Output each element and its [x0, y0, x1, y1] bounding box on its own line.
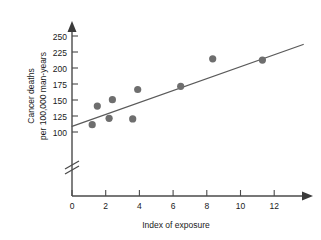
regression-line: [72, 45, 303, 127]
y-tick-label-175: 175: [53, 80, 67, 90]
y-tick-label-125: 125: [53, 112, 67, 122]
x-tick-label-6: 6: [171, 201, 176, 211]
x-axis-title: Index of exposure: [142, 220, 210, 230]
y-axis-arrow-icon: [68, 21, 77, 32]
chart-canvas: 250 225 200 175 150 125 100 0 2 4 6 8 10…: [0, 0, 321, 240]
x-tick-label-4: 4: [137, 201, 142, 211]
y-tick-label-250: 250: [53, 32, 67, 42]
y-axis-title: Cancer deaths per 100,000 man-years: [26, 52, 48, 140]
x-tick-label-12: 12: [269, 201, 279, 211]
scatter-chart: 250 225 200 175 150 125 100 0 2 4 6 8 10…: [0, 0, 321, 240]
x-tick-label-2: 2: [103, 201, 108, 211]
y-axis-title-line2: per 100,000 man-years: [38, 52, 48, 140]
data-point: [89, 121, 96, 128]
y-axis-title-line1: Cancer deaths: [26, 68, 36, 123]
y-tick-label-200: 200: [53, 64, 67, 74]
y-tick-label-150: 150: [53, 96, 67, 106]
x-tick-label-0: 0: [70, 201, 75, 211]
data-point: [106, 115, 113, 122]
x-axis-tick-labels: 0 2 4 6 8 10 12: [70, 201, 280, 211]
x-axis-group: [72, 192, 313, 201]
x-tick-label-10: 10: [236, 201, 246, 211]
y-tick-label-225: 225: [53, 48, 67, 58]
x-axis-ticks: [72, 190, 274, 196]
data-point: [109, 96, 116, 103]
data-point: [134, 86, 141, 93]
x-tick-label-8: 8: [204, 201, 209, 211]
x-axis-arrow-icon: [302, 192, 313, 201]
y-axis-ticks: [72, 36, 78, 132]
data-point: [94, 103, 101, 110]
data-point: [129, 115, 136, 122]
y-axis-tick-labels: 250 225 200 175 150 125 100: [53, 32, 67, 138]
data-point: [259, 57, 266, 64]
data-point: [209, 55, 216, 62]
y-tick-label-100: 100: [53, 128, 67, 138]
data-point: [177, 83, 184, 90]
data-points-group: [89, 55, 266, 128]
